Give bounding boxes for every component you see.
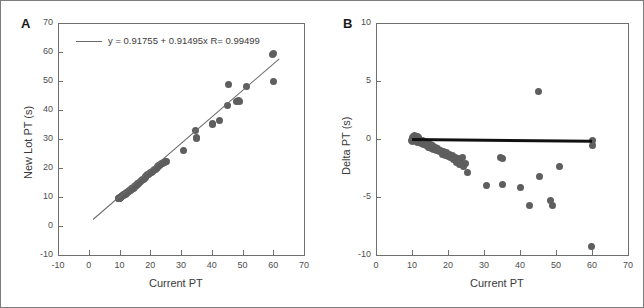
y-ticklabel-a: 70 bbox=[28, 17, 53, 27]
right-spine-a bbox=[304, 23, 305, 256]
y-ticklabel-a: 20 bbox=[28, 162, 53, 172]
x-ticklabel-b: 60 bbox=[577, 260, 607, 270]
y-tick-b bbox=[376, 197, 381, 198]
y-tick-a bbox=[58, 52, 63, 53]
x-ticklabel-a: 0 bbox=[74, 260, 104, 270]
y-ticklabel-b: 10 bbox=[346, 17, 371, 27]
x-tick-b bbox=[484, 250, 485, 255]
data-point bbox=[517, 184, 524, 191]
x-tick-a bbox=[120, 250, 121, 255]
y-tick-a bbox=[58, 81, 63, 82]
data-point bbox=[163, 158, 170, 165]
y-tick-b bbox=[376, 23, 381, 24]
figure-container: A New Lot PT (s) Current PT y = 0.91755 … bbox=[0, 0, 644, 308]
data-point bbox=[499, 155, 506, 162]
y-ticklabel-b: 0 bbox=[346, 133, 371, 143]
x-axis-title-b: Current PT bbox=[470, 277, 524, 289]
data-point bbox=[464, 169, 471, 176]
data-point bbox=[499, 181, 506, 188]
x-ticklabel-b: 30 bbox=[469, 260, 499, 270]
y-tick-b bbox=[376, 139, 381, 140]
x-tick-a bbox=[181, 250, 182, 255]
x-ticklabel-b: 70 bbox=[613, 260, 643, 270]
data-point bbox=[193, 134, 200, 141]
x-ticklabel-a: 10 bbox=[105, 260, 135, 270]
x-axis-spine-b bbox=[376, 255, 628, 256]
top-spine-b bbox=[376, 23, 628, 24]
data-point bbox=[588, 243, 595, 250]
x-ticklabel-b: 20 bbox=[433, 260, 463, 270]
data-point bbox=[270, 50, 277, 57]
x-axis-title-a: Current PT bbox=[149, 277, 203, 289]
top-spine-a bbox=[58, 23, 304, 24]
y-tick-a bbox=[58, 255, 63, 256]
x-tick-b bbox=[556, 250, 557, 255]
panel-b: B Delta PT (s) Current PT 01020304050607… bbox=[323, 1, 644, 308]
data-point bbox=[236, 98, 243, 105]
y-tick-a bbox=[58, 197, 63, 198]
y-tick-b bbox=[376, 255, 381, 256]
data-point bbox=[526, 202, 533, 209]
x-ticklabel-b: 0 bbox=[361, 260, 391, 270]
data-point bbox=[462, 160, 469, 167]
x-tick-b bbox=[628, 250, 629, 255]
y-tick-b bbox=[376, 81, 381, 82]
x-ticklabel-a: -10 bbox=[43, 260, 73, 270]
x-tick-a bbox=[273, 250, 274, 255]
data-point bbox=[180, 147, 187, 154]
regression-equation-label: y = 0.91755 + 0.91495x R= 0.99499 bbox=[108, 35, 260, 46]
x-ticklabel-a: 60 bbox=[258, 260, 288, 270]
x-axis-spine-a bbox=[58, 255, 304, 256]
plot-area-a bbox=[58, 23, 304, 255]
y-tick-a bbox=[58, 23, 63, 24]
x-tick-b bbox=[412, 250, 413, 255]
x-tick-a bbox=[89, 250, 90, 255]
y-ticklabel-a: -10 bbox=[28, 249, 53, 259]
data-point bbox=[225, 81, 232, 88]
x-ticklabel-a: 40 bbox=[197, 260, 227, 270]
y-ticklabel-a: 10 bbox=[28, 191, 53, 201]
data-point bbox=[483, 182, 490, 189]
x-tick-a bbox=[243, 250, 244, 255]
y-ticklabel-a: 30 bbox=[28, 133, 53, 143]
y-ticklabel-b: -5 bbox=[346, 191, 371, 201]
y-ticklabel-a: 50 bbox=[28, 75, 53, 85]
data-point bbox=[535, 88, 542, 95]
x-ticklabel-b: 50 bbox=[541, 260, 571, 270]
x-ticklabel-b: 10 bbox=[397, 260, 427, 270]
y-tick-a bbox=[58, 139, 63, 140]
data-point bbox=[549, 202, 556, 209]
x-tick-a bbox=[212, 250, 213, 255]
x-ticklabel-a: 20 bbox=[135, 260, 165, 270]
data-point bbox=[270, 78, 277, 85]
x-ticklabel-a: 30 bbox=[166, 260, 196, 270]
x-ticklabel-a: 50 bbox=[228, 260, 258, 270]
x-tick-a bbox=[304, 250, 305, 255]
y-tick-a bbox=[58, 168, 63, 169]
zero-reference-line bbox=[412, 138, 592, 143]
x-tick-b bbox=[448, 250, 449, 255]
data-point bbox=[216, 117, 223, 124]
data-point bbox=[589, 142, 596, 149]
panel-a: A New Lot PT (s) Current PT y = 0.91755 … bbox=[1, 1, 323, 308]
x-tick-a bbox=[150, 250, 151, 255]
x-tick-b bbox=[592, 250, 593, 255]
y-tick-a bbox=[58, 110, 63, 111]
y-ticklabel-a: 60 bbox=[28, 46, 53, 56]
y-tick-a bbox=[58, 226, 63, 227]
y-ticklabel-b: 5 bbox=[346, 75, 371, 85]
right-spine-b bbox=[628, 23, 629, 256]
legend-line-sample bbox=[76, 41, 102, 42]
y-ticklabel-b: -10 bbox=[346, 249, 371, 259]
x-tick-b bbox=[520, 250, 521, 255]
x-ticklabel-a: 70 bbox=[289, 260, 319, 270]
data-point bbox=[556, 163, 563, 170]
data-point bbox=[536, 173, 543, 180]
y-axis-title-b: Delta PT (s) bbox=[340, 117, 352, 175]
x-ticklabel-b: 40 bbox=[505, 260, 535, 270]
y-ticklabel-a: 40 bbox=[28, 104, 53, 114]
y-ticklabel-a: 0 bbox=[28, 220, 53, 230]
plot-area-b bbox=[376, 23, 628, 255]
